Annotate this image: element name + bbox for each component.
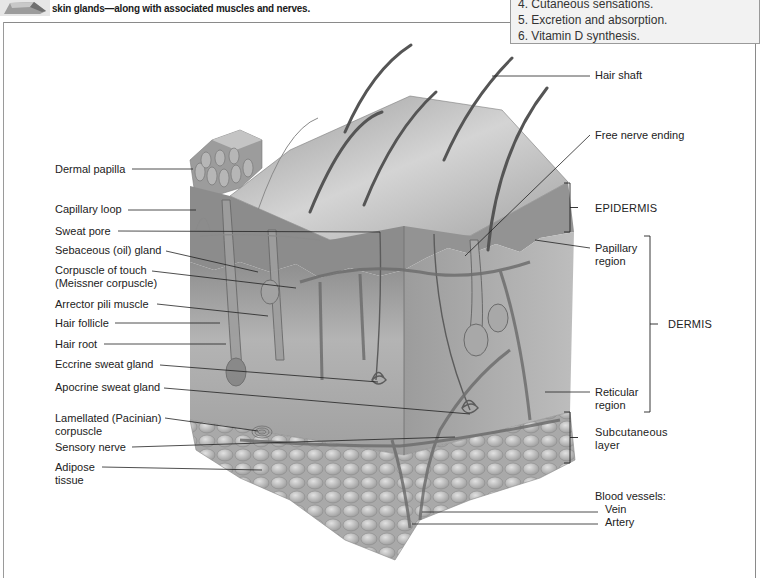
label-line: DERMIS bbox=[668, 318, 712, 331]
label-line: Arrector pili muscle bbox=[55, 298, 149, 311]
label-eccrine-sweat-gland: Eccrine sweat gland bbox=[55, 358, 153, 371]
label-line: Apocrine sweat gland bbox=[55, 381, 160, 394]
label-line: Sweat pore bbox=[55, 225, 111, 238]
label-apocrine-sweat-gland: Apocrine sweat gland bbox=[55, 381, 160, 394]
label-line: Hair follicle bbox=[55, 317, 109, 330]
label-line: Subcutaneous bbox=[595, 426, 668, 439]
label-line: Hair root bbox=[55, 338, 97, 351]
bracket-label-subcutaneous: Subcutaneouslayer bbox=[595, 426, 668, 452]
label-line: Hair shaft bbox=[595, 69, 642, 82]
label-line: Papillary bbox=[595, 242, 637, 255]
label-line: Eccrine sweat gland bbox=[55, 358, 153, 371]
label-line: Corpuscle of touch bbox=[55, 264, 157, 277]
label-line: tissue bbox=[55, 474, 95, 487]
bracket-dermis bbox=[644, 236, 658, 412]
label-free-nerve-ending: Free nerve ending bbox=[595, 129, 684, 142]
label-line: layer bbox=[595, 439, 668, 452]
label-corpuscle-of-touch: Corpuscle of touch(Meissner corpuscle) bbox=[55, 264, 157, 290]
label-hair-follicle: Hair follicle bbox=[55, 317, 109, 330]
label-arrector-pili-muscle: Arrector pili muscle bbox=[55, 298, 149, 311]
label-sensory-nerve: Sensory nerve bbox=[55, 441, 126, 454]
label-line: Dermal papilla bbox=[55, 163, 125, 176]
label-dermal-papilla: Dermal papilla bbox=[55, 163, 125, 176]
label-adipose-tissue: Adiposetissue bbox=[55, 461, 95, 487]
label-line: Vein bbox=[605, 503, 626, 516]
label-papillary-region: Papillaryregion bbox=[595, 242, 637, 268]
label-line: (Meissner corpuscle) bbox=[55, 277, 157, 290]
label-line: Reticular bbox=[595, 386, 638, 399]
label-line: EPIDERMIS bbox=[595, 202, 657, 215]
label-line: Free nerve ending bbox=[595, 129, 684, 142]
label-sweat-pore: Sweat pore bbox=[55, 225, 111, 238]
label-capillary-loop: Capillary loop bbox=[55, 203, 122, 216]
label-hair-shaft: Hair shaft bbox=[595, 69, 642, 82]
bracket-label-dermis: DERMIS bbox=[668, 318, 712, 331]
label-line: Blood vessels: bbox=[595, 490, 666, 503]
label-line: Artery bbox=[605, 516, 634, 529]
label-line: region bbox=[595, 399, 638, 412]
label-line: Sensory nerve bbox=[55, 441, 126, 454]
label-line: Capillary loop bbox=[55, 203, 122, 216]
label-blood-vessels: Blood vessels: bbox=[595, 490, 666, 503]
label-line: Sebaceous (oil) gland bbox=[55, 244, 161, 257]
label-hair-root: Hair root bbox=[55, 338, 97, 351]
label-vein: Vein bbox=[605, 503, 626, 516]
label-line: region bbox=[595, 255, 637, 268]
label-sebaceous-gland: Sebaceous (oil) gland bbox=[55, 244, 161, 257]
label-line: corpuscle bbox=[55, 425, 161, 438]
label-line: Adipose bbox=[55, 461, 95, 474]
label-reticular-region: Reticularregion bbox=[595, 386, 638, 412]
label-artery: Artery bbox=[605, 516, 634, 529]
label-lamellated-corpuscle: Lamellated (Pacinian)corpuscle bbox=[55, 412, 161, 438]
label-line: Lamellated (Pacinian) bbox=[55, 412, 161, 425]
bracket-label-epidermis: EPIDERMIS bbox=[595, 202, 657, 215]
